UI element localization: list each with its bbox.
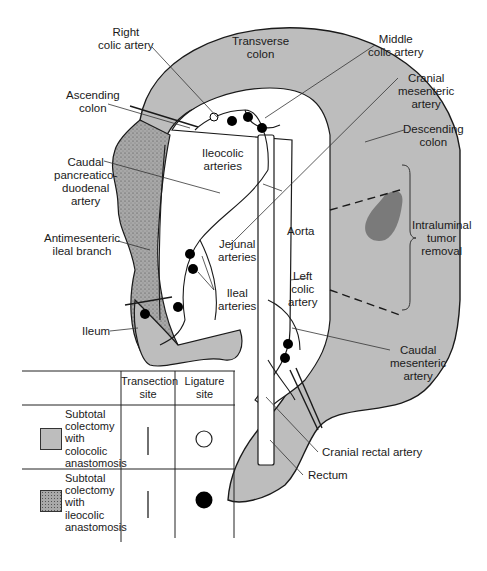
label-middle-colic-artery: Middle colic artery [368,33,424,59]
legend-table: Transection site Ligature site Subtotal … [20,370,235,542]
legend-row-colocolic-label: Subtotal colectomy with colocolic anasto… [65,408,127,469]
label-cranial-mesenteric-artery: Cranial mesenteric artery [398,72,454,111]
filled-circle-ligature-symbol [196,492,213,509]
label-rectum: Rectum [308,469,348,482]
label-cranial-rectal-artery: Cranial rectal artery [322,446,422,459]
label-descending-colon: Descending colon [403,123,464,149]
label-ileum: Ileum [82,325,110,338]
legend-row-ileocolic-label: Subtotal colectomy with ileocolic anasto… [65,472,127,533]
swatch-ileocolic [40,490,62,512]
label-antimesenteric-ileal-branch: Antimesenteric ileal branch [44,232,120,258]
label-transverse-colon: Transverse colon [232,35,289,61]
label-ileocolic-arteries: Ileocolic arteries [202,147,244,173]
header-transection-site: Transection site [121,375,175,401]
swatch-colocolic [40,428,62,450]
label-aorta: Aorta [287,225,315,238]
label-caudal-mesenteric-artery: Caudal mesenteric artery [390,344,446,383]
header-ligature-site: Ligature site [175,375,234,401]
label-caudal-pancreaticoduodenal-artery: Caudal pancreatico- duodenal artery [54,156,117,208]
label-jejunal-arteries: Jejunal arteries [218,238,256,264]
label-ascending-colon: Ascending colon [66,89,120,115]
label-right-colic-artery: Right colic artery [98,26,154,52]
label-ileal-arteries: Ileal arteries [218,287,256,313]
label-intraluminal-tumor-removal: Intraluminal tumor removal [412,219,471,258]
label-left-colic-artery: Left colic artery [288,270,317,309]
aorta [258,135,274,465]
open-circle-ligature-symbol [196,431,212,447]
